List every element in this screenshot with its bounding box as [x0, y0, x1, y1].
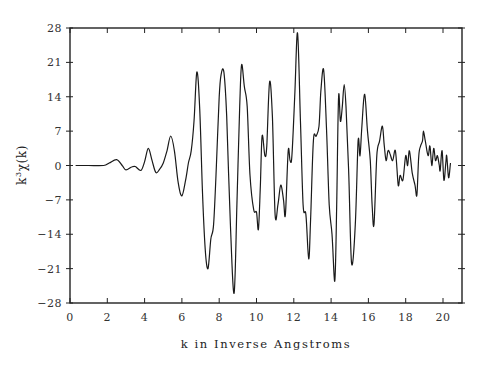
y-tick-label: 28	[47, 22, 62, 35]
y-axis-title-rest: χ(k)	[15, 145, 29, 171]
y-tick-label: 0	[55, 160, 63, 173]
y-tick-label: −7	[45, 194, 62, 207]
y-axis-title-base: k	[15, 177, 29, 185]
y-tick-label: −14	[37, 228, 62, 241]
x-axis-ticks	[70, 28, 443, 303]
x-tick-label: 20	[436, 311, 451, 324]
x-axis-tick-labels: 02468101214161820	[66, 311, 450, 324]
x-tick-label: 14	[324, 311, 339, 324]
exafs-chart: 02468101214161820 28211470−7−14−21−28 k …	[0, 0, 483, 367]
y-tick-label: −21	[37, 263, 62, 276]
y-axis-tick-labels: 28211470−7−14−21−28	[37, 22, 62, 310]
y-tick-label: 14	[47, 91, 62, 104]
x-tick-label: 4	[141, 311, 149, 324]
y-axis-title: k3χ(k)	[14, 145, 29, 185]
x-axis-title: k in Inverse Angstroms	[181, 337, 352, 351]
x-tick-label: 8	[215, 311, 223, 324]
y-tick-label: 7	[55, 125, 63, 138]
x-tick-label: 0	[66, 311, 74, 324]
x-tick-label: 10	[249, 311, 264, 324]
y-tick-label: 21	[47, 56, 62, 69]
x-tick-label: 18	[398, 311, 413, 324]
y-tick-label: −28	[37, 297, 62, 310]
svg-text:k3χ(k): k3χ(k)	[14, 145, 29, 185]
plot-frame	[70, 28, 462, 303]
y-axis-ticks	[66, 28, 465, 303]
x-tick-label: 6	[178, 311, 186, 324]
x-tick-label: 12	[286, 311, 301, 324]
data-line	[76, 33, 451, 294]
x-tick-label: 2	[104, 311, 112, 324]
x-tick-label: 16	[361, 311, 376, 324]
